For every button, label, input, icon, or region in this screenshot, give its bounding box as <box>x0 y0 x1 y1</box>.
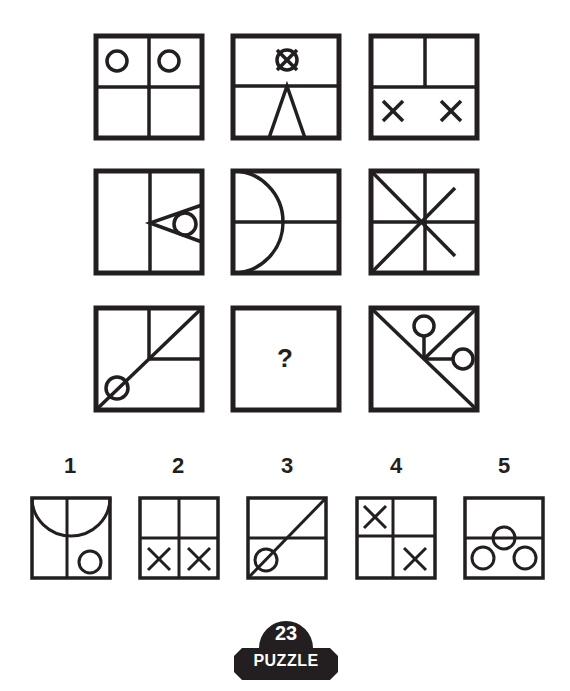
crossed-circle-tent-icon <box>230 33 342 141</box>
puzzle-cell-r2c3 <box>368 168 480 276</box>
empty-box-icon <box>230 305 342 413</box>
grid-two-x-bottom-icon <box>138 496 220 580</box>
grid-diagonal-x-icon <box>355 496 437 580</box>
answer-label-5: 5 <box>474 453 534 479</box>
puzzle-number-badge: 23 PUZZLE <box>232 620 340 680</box>
triangle-circle-icon <box>93 168 205 276</box>
answer-label-3: 3 <box>257 453 317 479</box>
answer-label-2: 2 <box>148 453 208 479</box>
badge-word: PUZZLE <box>232 652 340 670</box>
puzzle-cell-r2c1 <box>93 168 205 276</box>
answer-option-1[interactable] <box>30 496 112 580</box>
answer-option-5[interactable] <box>463 496 545 580</box>
split-top-two-x-icon <box>368 33 480 141</box>
star-lines-icon <box>368 168 480 276</box>
diagonal-circle-icon <box>93 305 205 413</box>
puzzle-cell-r3c3 <box>368 305 480 413</box>
quad-grid-two-circles-icon <box>93 33 205 141</box>
answer-label-4: 4 <box>366 453 426 479</box>
answer-option-3[interactable] <box>246 496 328 580</box>
three-circles-option-icon <box>463 496 545 580</box>
diagonal-circle-option-icon <box>246 496 328 580</box>
diagonal-branches-circles-icon <box>368 305 480 413</box>
badge-number: 23 <box>232 622 340 645</box>
half-circle-arc-icon <box>230 168 342 276</box>
puzzle-cell-r1c3 <box>368 33 480 141</box>
answer-label-1: 1 <box>40 453 100 479</box>
puzzle-cell-r3c2-missing[interactable]: ? <box>230 305 342 413</box>
answer-option-2[interactable] <box>138 496 220 580</box>
puzzle-cell-r2c2 <box>230 168 342 276</box>
puzzle-cell-r1c1 <box>93 33 205 141</box>
answer-option-4[interactable] <box>355 496 437 580</box>
puzzle-cell-r1c2 <box>230 33 342 141</box>
puzzle-cell-r3c1 <box>93 305 205 413</box>
arc-circle-option-icon <box>30 496 112 580</box>
